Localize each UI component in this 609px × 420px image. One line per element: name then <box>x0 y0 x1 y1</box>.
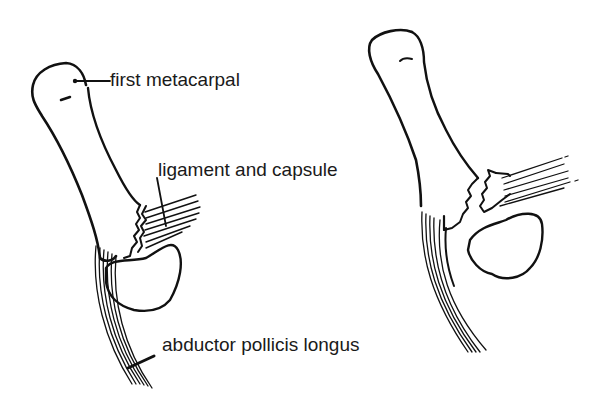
left-head-mark <box>61 97 70 100</box>
right-metacarpal-jagged-base <box>444 178 478 230</box>
label-first-metacarpal: first metacarpal <box>110 70 240 89</box>
left-metacarpal-outline <box>32 63 116 261</box>
left-ligament-fibers <box>144 195 200 248</box>
right-metacarpal-left-edge <box>369 30 421 206</box>
right-metacarpal-right-edge <box>412 32 478 178</box>
diagram-svg <box>0 0 609 420</box>
left-abductor-tendon <box>95 246 152 388</box>
right-ligament-fibers <box>500 156 578 206</box>
left-metacarpal-jagged-base <box>124 205 140 258</box>
diagram-canvas: first metacarpal ligament and capsule ab… <box>0 0 609 420</box>
label-ligament-and-capsule: ligament and capsule <box>158 160 338 179</box>
right-trapezium <box>468 214 543 279</box>
left-metacarpal-right-edge <box>88 88 140 205</box>
right-head-mark <box>400 58 412 61</box>
label-abductor-pollicis-longus: abductor pollicis longus <box>162 335 360 354</box>
right-metacarpal-shaft-line <box>445 228 454 286</box>
right-panel <box>369 30 578 352</box>
